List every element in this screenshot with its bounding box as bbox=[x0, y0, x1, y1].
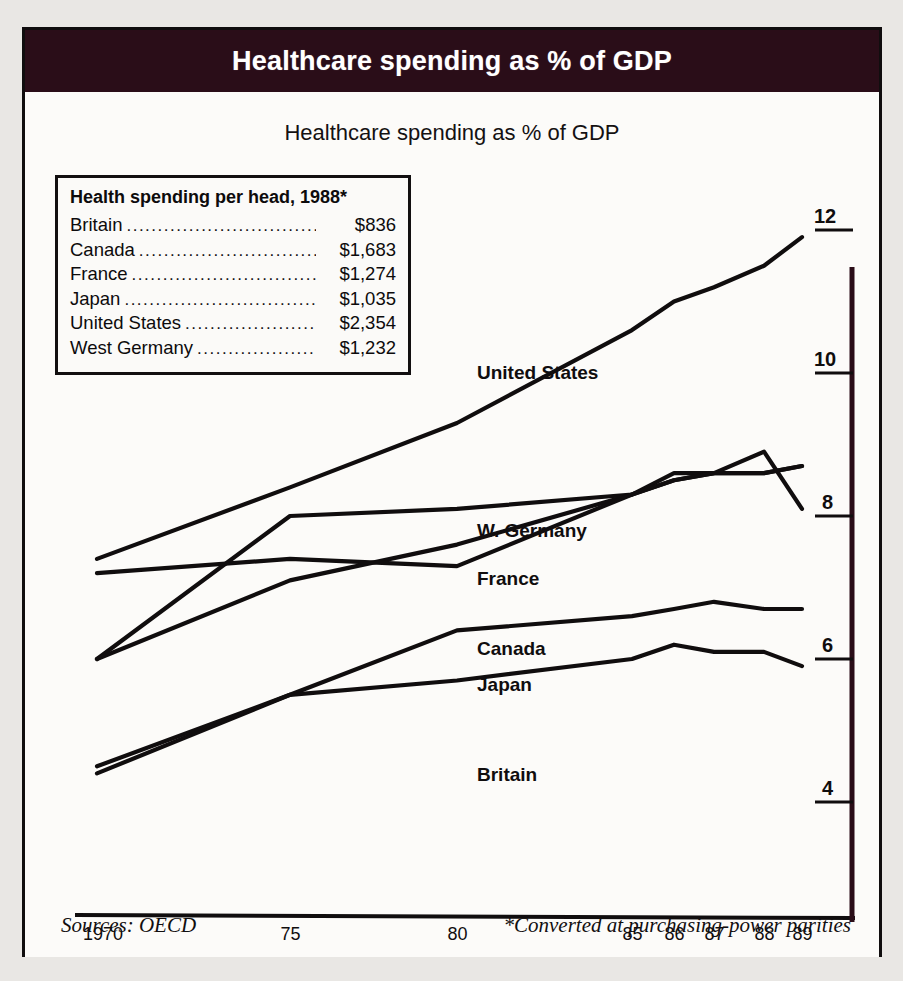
y-tick-label: 8 bbox=[822, 491, 833, 514]
chart-svg bbox=[25, 92, 879, 957]
source-note: Sources: OECD bbox=[61, 913, 196, 938]
figure-footer: Sources: OECD *Converted at purchasing-p… bbox=[25, 913, 879, 943]
title-banner: Healthcare spending as % of GDP bbox=[25, 30, 879, 92]
series-label-w-germany: W. Germany bbox=[477, 520, 587, 542]
y-axis-ticks bbox=[815, 230, 853, 802]
series-line-britain bbox=[97, 645, 802, 767]
series-label-canada: Canada bbox=[477, 638, 546, 660]
series-label-japan: Japan bbox=[477, 674, 532, 696]
series-label-france: France bbox=[477, 568, 539, 590]
series-line-japan bbox=[97, 602, 802, 774]
page-title: Healthcare spending as % of GDP bbox=[232, 46, 672, 77]
y-tick-label: 4 bbox=[822, 777, 833, 800]
chart-figure: Healthcare spending as % of GDP Healthca… bbox=[22, 27, 882, 957]
conversion-note: *Converted at purchasing-power parities bbox=[504, 913, 851, 938]
y-tick-label: 10 bbox=[814, 348, 836, 371]
series-label-united-states: United States bbox=[477, 362, 598, 384]
series-line-w-germany bbox=[97, 466, 802, 659]
y-tick-label: 6 bbox=[822, 634, 833, 657]
series-label-britain: Britain bbox=[477, 764, 537, 786]
line-chart-plot: United StatesW. GermanyFranceCanadaJapan… bbox=[25, 92, 879, 957]
series-paths bbox=[97, 237, 802, 773]
series-line-france bbox=[97, 452, 802, 659]
axis-lines bbox=[75, 267, 855, 922]
y-tick-label: 12 bbox=[814, 205, 836, 228]
chart-card: Healthcare spending as % of GDP Health s… bbox=[25, 92, 879, 957]
